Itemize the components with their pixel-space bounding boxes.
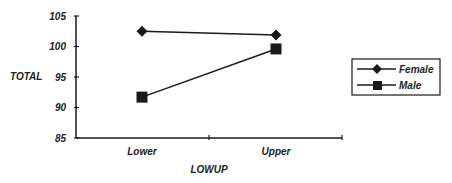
y-axis-label: TOTAL bbox=[10, 71, 42, 82]
legend-male-label: Male bbox=[399, 80, 422, 91]
x-category-label: Lower bbox=[127, 146, 158, 157]
legend-male-square-icon bbox=[373, 81, 382, 90]
y-tick-label: 105 bbox=[49, 11, 66, 22]
legend: Female Male bbox=[352, 59, 440, 95]
y-tick-label: 85 bbox=[55, 133, 67, 144]
legend-female-label: Female bbox=[399, 64, 434, 75]
y-tick-label: 95 bbox=[55, 72, 67, 83]
square-marker-icon bbox=[137, 92, 148, 103]
y-tick-label: 100 bbox=[49, 41, 66, 52]
diamond-marker-icon bbox=[271, 29, 282, 40]
series-group bbox=[137, 26, 282, 103]
y-tick-label: 90 bbox=[55, 102, 67, 113]
x-category-label: Upper bbox=[262, 146, 292, 157]
x-axis-label: LOWUP bbox=[190, 164, 228, 175]
series-line-female bbox=[142, 31, 276, 35]
diamond-marker-icon bbox=[137, 26, 148, 37]
line-chart: 859095100105 TOTAL LOWUP LowerUpper Fema… bbox=[0, 0, 452, 183]
x-categories: LowerUpper bbox=[127, 146, 291, 157]
square-marker-icon bbox=[271, 43, 282, 54]
y-ticks: 859095100105 bbox=[49, 11, 79, 144]
series-line-male bbox=[142, 49, 276, 97]
